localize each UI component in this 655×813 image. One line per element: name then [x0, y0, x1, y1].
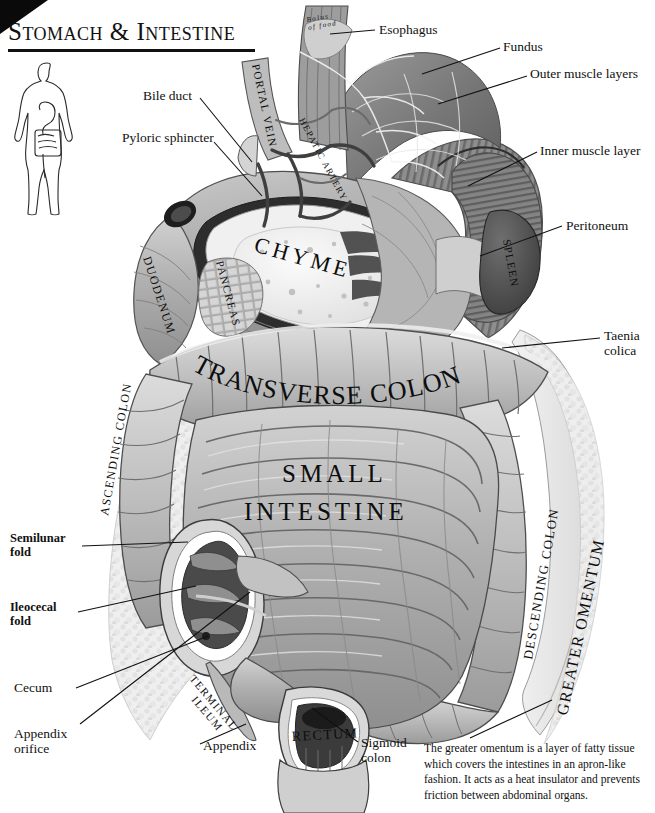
- callout-taenia-colica: Taenia colica: [604, 328, 640, 358]
- callout-cecum: Cecum: [14, 680, 52, 695]
- callout-peritoneum: Peritoneum: [566, 218, 628, 233]
- illustration-page: Bolusof foodPORTAL VEINHEPATIC ARTERYSPL…: [0, 0, 655, 813]
- callout-appendix-orifice: Appendix orifice: [14, 726, 67, 756]
- callout-pyloric-sphincter: Pyloric sphincter: [122, 130, 214, 145]
- callout-ileocecal-fold: Ileocecal fold: [10, 600, 57, 628]
- organ-label-small-intestine-1: SMALL: [282, 460, 387, 487]
- omentum-caption: The greater omentum is a layer of fatty …: [424, 741, 652, 804]
- callout-sigmoid-colon: Sigmoid colon: [361, 735, 407, 765]
- callout-bile-duct: Bile duct: [143, 88, 192, 103]
- organ-label-small-intestine-2: INTESTINE: [244, 498, 408, 525]
- callout-inner-muscle: Inner muscle layer: [540, 143, 640, 158]
- anatomy-illustration: Bolusof foodPORTAL VEINHEPATIC ARTERYSPL…: [0, 0, 655, 813]
- callout-esophagus: Esophagus: [379, 22, 438, 37]
- body-silhouette-icon: [12, 58, 82, 216]
- callout-fundus: Fundus: [503, 39, 543, 54]
- callout-outer-muscle: Outer muscle layers: [530, 66, 638, 81]
- title-underline: [8, 49, 255, 52]
- callout-appendix: Appendix: [203, 738, 256, 753]
- page-title: Stomach & Intestine: [8, 18, 235, 46]
- callout-semilunar-fold: Semilunar fold: [10, 531, 66, 559]
